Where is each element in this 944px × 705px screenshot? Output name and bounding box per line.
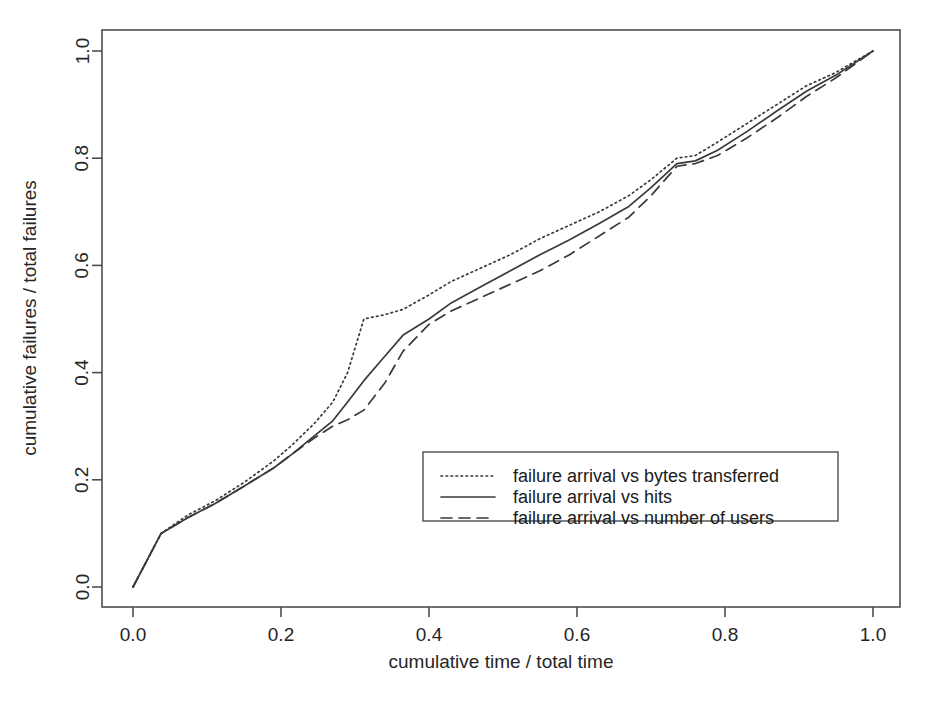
y-tick-label: 0.2 (72, 467, 93, 493)
legend-label-1: failure arrival vs hits (513, 487, 672, 507)
x-tick-label: 0.8 (712, 624, 738, 645)
chart-figure: 0.00.20.40.60.81.0 0.00.20.40.60.81.0 cu… (0, 0, 944, 705)
y-tick-label: 0.0 (72, 574, 93, 600)
plot-canvas: 0.00.20.40.60.81.0 0.00.20.40.60.81.0 cu… (0, 0, 944, 705)
y-tick-label: 1.0 (72, 38, 93, 64)
legend-label-0: failure arrival vs bytes transferred (513, 466, 779, 486)
y-tick-label: 0.8 (72, 145, 93, 171)
x-axis-ticks (133, 607, 873, 617)
y-tick-label: 0.4 (72, 359, 93, 386)
x-axis-title: cumulative time / total time (389, 651, 614, 672)
x-axis-tick-labels: 0.00.20.40.60.81.0 (120, 624, 886, 645)
x-tick-label: 0.4 (416, 624, 443, 645)
x-tick-label: 0.0 (120, 624, 146, 645)
y-axis-title: cumulative failures / total failures (19, 180, 40, 456)
legend-label-2: failure arrival vs number of users (513, 508, 774, 528)
y-axis-ticks (92, 51, 102, 587)
x-tick-label: 0.6 (564, 624, 590, 645)
x-tick-label: 1.0 (860, 624, 886, 645)
chart-legend: failure arrival vs bytes transferredfail… (423, 452, 838, 528)
y-axis-tick-labels: 0.00.20.40.60.81.0 (72, 38, 93, 600)
x-tick-label: 0.2 (268, 624, 294, 645)
y-tick-label: 0.6 (72, 252, 93, 278)
